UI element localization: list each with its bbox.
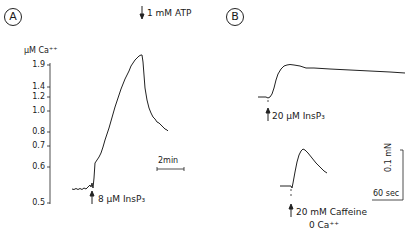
- tick-1-0: 1.0: [19, 107, 45, 115]
- panel-b-insp3-trace: [258, 65, 405, 99]
- tick-0-7: 0.7: [19, 142, 45, 150]
- insp3-annotation-b: 20 μM InsP₃: [272, 112, 325, 121]
- insp3-annotation-a: 8 μM InsP₃: [98, 195, 145, 204]
- panel-b-caffeine-trace: [280, 149, 327, 188]
- tick-1-4: 1.4: [19, 83, 45, 91]
- panel-a-time-scale-bar: [157, 167, 184, 171]
- zero-ca-annotation: 0 Ca⁺⁺: [309, 221, 339, 230]
- panel-b-label: B: [226, 8, 244, 26]
- tick-1-2: 1.2: [19, 93, 45, 101]
- panel-a-y-axis: [47, 63, 50, 204]
- tick-0-6: 0.6: [19, 163, 45, 171]
- atp-annotation: 1 mM ATP: [147, 9, 191, 18]
- insp3-arrow-b-icon: [266, 100, 270, 121]
- y-axis-label: μM Ca⁺⁺: [24, 47, 57, 55]
- caffeine-annotation: 20 mM Caffeine: [296, 208, 367, 217]
- figure: [0, 0, 410, 237]
- caffeine-arrow-icon: [289, 189, 293, 217]
- tick-0-5: 0.5: [19, 199, 45, 207]
- tick-0-8: 0.8: [19, 128, 45, 136]
- panel-a-ca-trace: [72, 55, 168, 190]
- time-scale-label-b: 60 sec: [373, 190, 399, 198]
- panel-a-label: A: [4, 8, 22, 26]
- tick-1-9: 1.9: [19, 61, 45, 69]
- force-scale-label: 0.1 mN: [385, 143, 393, 172]
- atp-arrow-icon: [140, 6, 144, 19]
- time-scale-label-a: 2min: [158, 157, 178, 165]
- insp3-arrow-a-icon: [90, 191, 94, 204]
